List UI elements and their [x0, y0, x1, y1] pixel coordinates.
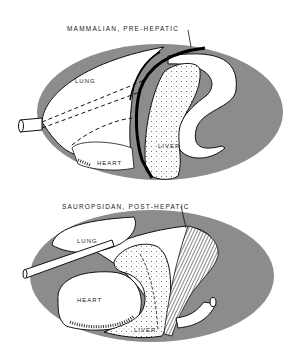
liver-label: LIVER	[134, 327, 156, 333]
heart-label: HEART	[97, 160, 122, 166]
heart-label: HEART	[77, 297, 102, 303]
mammalian-title: MAMMALIAN, PRE-HEPATIC	[67, 25, 179, 32]
liver-label: LIVER	[158, 143, 180, 149]
lung-label: LUNG	[75, 78, 96, 84]
lung-label: LUNG	[77, 238, 98, 244]
mammalian-panel	[19, 30, 284, 180]
anatomical-diagram	[0, 0, 298, 352]
sauropsidan-panel	[23, 206, 274, 342]
septum-comparison-figure: MAMMALIAN, PRE-HEPATIC LUNG HEART LIVER …	[0, 0, 298, 352]
sauropsidan-title: SAUROPSIDAN, POST-HEPATIC	[62, 203, 190, 210]
